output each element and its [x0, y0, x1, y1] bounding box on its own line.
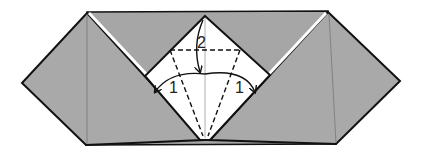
origami-diagram: 2 1 1 [0, 0, 423, 156]
step-label-1-left: 1 [169, 79, 178, 96]
step-label-1-right: 1 [235, 79, 244, 96]
step-label-2: 2 [197, 34, 206, 51]
